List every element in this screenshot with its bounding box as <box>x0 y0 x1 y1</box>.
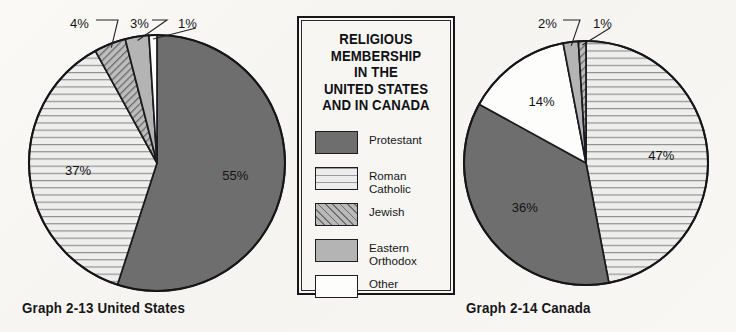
legend-label-line: Orthodox <box>369 255 417 268</box>
legend-item-other: Other <box>315 274 453 301</box>
pie-chart-united-states: 55%37%4%3%1% <box>0 0 300 332</box>
legend-swatch-protestant <box>315 131 358 154</box>
pie-value-label-eastern-orthodox: 3% <box>130 16 149 31</box>
legend-title-line-2: MEMBERSHIP <box>310 48 442 65</box>
pie-value-label-roman-catholic: 47% <box>648 148 674 163</box>
legend-label-roman-catholic: RomanCatholic <box>369 166 411 196</box>
legend-title-line-1: RELIGIOUS <box>310 31 442 48</box>
legend-label-other: Other <box>369 274 398 291</box>
legend-swatch-jewish <box>315 203 358 226</box>
legend-item-roman-catholic: RomanCatholic <box>315 166 453 193</box>
legend-title-line-5: AND IN CANADA <box>310 97 442 114</box>
legend-title: RELIGIOUSMEMBERSHIPIN THEUNITED STATESAN… <box>310 31 442 114</box>
legend-box: RELIGIOUSMEMBERSHIPIN THEUNITED STATESAN… <box>297 16 455 295</box>
legend-label-line: Protestant <box>369 134 422 147</box>
pie-value-label-jewish: 4% <box>70 16 89 31</box>
legend-swatch-roman-catholic <box>315 167 358 190</box>
legend-label-eastern-orthodox: EasternOrthodox <box>369 238 417 268</box>
pie-value-label-eastern-orthodox: 2% <box>538 16 557 31</box>
pie-slice-roman-catholic <box>586 41 708 283</box>
legend-title-line-4: UNITED STATES <box>310 81 442 98</box>
legend-items: ProtestantRomanCatholicJewishEasternOrth… <box>299 130 453 301</box>
caption-united-states: Graph 2-13 United States <box>22 300 185 316</box>
legend-label-jewish: Jewish <box>369 202 404 219</box>
legend-label-protestant: Protestant <box>369 130 422 147</box>
legend-label-line: Eastern <box>369 242 417 255</box>
pie-value-label-roman-catholic: 37% <box>65 163 91 178</box>
legend-swatch-eastern-orthodox <box>315 239 358 262</box>
legend-label-line: Jewish <box>369 206 404 219</box>
legend-item-eastern-orthodox: EasternOrthodox <box>315 238 453 265</box>
pie-svg-united-states: 55%37%4%3%1% <box>0 0 300 300</box>
legend-item-jewish: Jewish <box>315 202 453 229</box>
legend-label-line: Other <box>369 278 398 291</box>
chart-page: 55%37%4%3%1% Graph 2-13 United States 47… <box>0 0 736 332</box>
caption-canada: Graph 2-14 Canada <box>466 300 591 316</box>
pie-value-label-protestant: 55% <box>222 168 248 183</box>
pie-svg-canada: 47%36%14%2%1% <box>460 0 736 300</box>
pie-chart-canada: 47%36%14%2%1% <box>460 0 736 332</box>
pie-value-label-other: 14% <box>529 94 555 109</box>
legend-title-line-3: IN THE <box>310 64 442 81</box>
legend-swatch-other <box>315 275 358 298</box>
pie-value-label-protestant: 36% <box>512 200 538 215</box>
legend-item-protestant: Protestant <box>315 130 453 157</box>
legend-label-line: Roman <box>369 170 411 183</box>
legend-label-line: Catholic <box>369 183 411 196</box>
